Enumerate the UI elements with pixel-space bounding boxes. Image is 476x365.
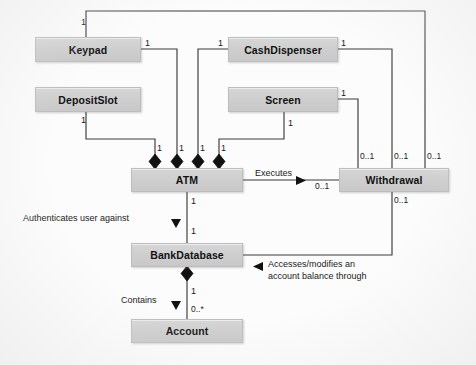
multiplicity-depositslot-bottom: 1 (81, 115, 86, 125)
multiplicity-withdrawal-top-3: 0..1 (427, 151, 441, 161)
multiplicity-atm-assoc-4: 1 (221, 143, 226, 153)
label-accesses-modifies-line1: Accesses/modifies an (268, 259, 355, 270)
class-box-withdrawal[interactable]: Withdrawal (339, 168, 449, 192)
class-name-atm: ATM (176, 174, 198, 186)
link-screen-atm (219, 112, 284, 155)
multiplicity-cashdispenser-right: 1 (341, 38, 346, 48)
link-withdrawal-screen (338, 99, 358, 168)
arrow-authenticates (171, 219, 181, 228)
label-contains: Contains (121, 295, 157, 306)
multiplicity-bankdatabase-bottom: 1 (191, 286, 196, 296)
diamond-depositslot (149, 154, 161, 169)
multiplicity-account-top: 0..* (191, 304, 204, 314)
diamond-keypad (171, 154, 183, 169)
class-box-account[interactable]: Account (131, 319, 243, 343)
diamond-contains (181, 266, 193, 281)
class-name-depositslot: DepositSlot (58, 94, 117, 106)
class-box-atm[interactable]: ATM (131, 168, 243, 192)
class-name-cashdispenser: CashDispenser (244, 44, 322, 56)
diamond-screen (213, 154, 225, 169)
multiplicity-withdrawal-top-2: 0..1 (394, 151, 408, 161)
uml-diagram-canvas: Keypad CashDispenser DepositSlot Screen … (0, 0, 476, 365)
arrow-accesses (253, 262, 263, 271)
link-withdrawal-bankdatabase (243, 192, 392, 255)
class-name-screen: Screen (265, 94, 301, 106)
class-name-account: Account (166, 325, 209, 337)
multiplicity-bankdatabase-top: 1 (191, 226, 196, 236)
multiplicity-atm-assoc-3: 1 (200, 143, 205, 153)
multiplicity-atm-bottom: 1 (191, 196, 196, 206)
multiplicity-screen-right: 1 (341, 88, 346, 98)
label-authenticates-user-against: Authenticates user against (23, 213, 129, 224)
label-accesses-modifies-line2: account balance through (268, 271, 367, 282)
link-depositslot-atm (86, 112, 155, 155)
class-box-keypad[interactable]: Keypad (35, 37, 141, 62)
multiplicity-withdrawal-left: 0..1 (315, 181, 329, 191)
class-box-cashdispenser[interactable]: CashDispenser (228, 37, 338, 62)
label-executes: Executes (255, 168, 292, 179)
multiplicity-cashdispenser-left: 1 (218, 38, 223, 48)
multiplicity-withdrawal-top-1: 0..1 (360, 151, 374, 161)
class-name-keypad: Keypad (69, 44, 108, 56)
multiplicity-keypad-right: 1 (145, 38, 150, 48)
class-box-bankdatabase[interactable]: BankDatabase (131, 243, 243, 267)
multiplicity-keypad-top: 1 (81, 17, 86, 27)
multiplicity-atm-assoc-2: 1 (179, 143, 184, 153)
diamond-cashdispenser (192, 154, 204, 169)
multiplicity-atm-assoc-1: 1 (157, 143, 162, 153)
multiplicity-screen-bottom: 1 (288, 118, 293, 128)
class-box-depositslot[interactable]: DepositSlot (35, 87, 141, 112)
class-box-screen[interactable]: Screen (228, 87, 338, 112)
class-name-bankdatabase: BankDatabase (150, 249, 224, 261)
arrow-executes (296, 176, 306, 185)
arrow-contains (171, 301, 181, 310)
class-name-withdrawal: Withdrawal (366, 174, 423, 186)
multiplicity-withdrawal-bottom: 0..1 (394, 195, 408, 205)
